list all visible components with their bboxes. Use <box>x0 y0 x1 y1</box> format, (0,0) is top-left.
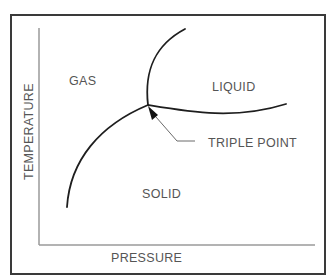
x-axis-label: PRESSURE <box>111 251 182 265</box>
y-axis-label: TEMPERATURE <box>22 83 36 180</box>
region-label-gas: GAS <box>69 74 96 88</box>
region-label-solid: SOLID <box>142 187 181 201</box>
triple-point-label: TRIPLE POINT <box>208 136 297 150</box>
phase-diagram: GAS LIQUID SOLID TRIPLE POINT PRESSURE T… <box>0 0 335 276</box>
fusion-curve <box>148 104 286 113</box>
sublimation-curve <box>67 105 148 207</box>
region-label-liquid: LIQUID <box>212 80 255 94</box>
triple-point-leader-line <box>156 117 195 141</box>
vaporization-curve <box>147 29 185 105</box>
